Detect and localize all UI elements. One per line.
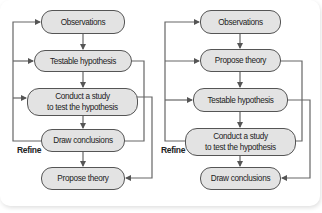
node-testable-hypothesis: Testable hypothesis [34,50,132,72]
node-conduct-study: Conduct a study to test the hypothesis [27,88,138,116]
node-observations: Observations [41,10,125,34]
node-conduct-study: Conduct a study to test the hypothesis [185,128,296,156]
node-propose-theory: Propose theory [41,167,125,190]
node-draw-conclusions: Draw conclusions [41,129,125,152]
node-testable-hypothesis: Testable hypothesis [193,88,288,112]
node-propose-theory: Propose theory [200,49,281,72]
refine-label: Refine [161,145,185,155]
node-draw-conclusions: Draw conclusions [200,167,281,190]
node-observations: Observations [200,10,281,34]
refine-label: Refine [17,145,41,155]
